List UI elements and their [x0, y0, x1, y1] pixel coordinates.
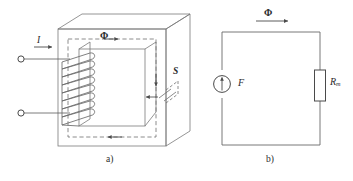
flux-b-arrow-head [284, 19, 288, 23]
mmf-source-label: F [238, 78, 244, 88]
figure-canvas: Φ I S a) Φ F Rm b) [0, 0, 353, 181]
part-b-drawing [0, 0, 353, 181]
reluctance-symbol [315, 70, 326, 101]
flux-label-a: Φ [100, 31, 108, 41]
caption-a: a) [106, 155, 113, 165]
caption-b: b) [266, 155, 274, 165]
reluctance-label: Rm [330, 77, 341, 88]
flux-label-b: Φ [264, 8, 272, 18]
area-label: S [173, 67, 178, 77]
current-label: I [37, 36, 40, 46]
reluctance-label-sub: m [336, 80, 340, 87]
